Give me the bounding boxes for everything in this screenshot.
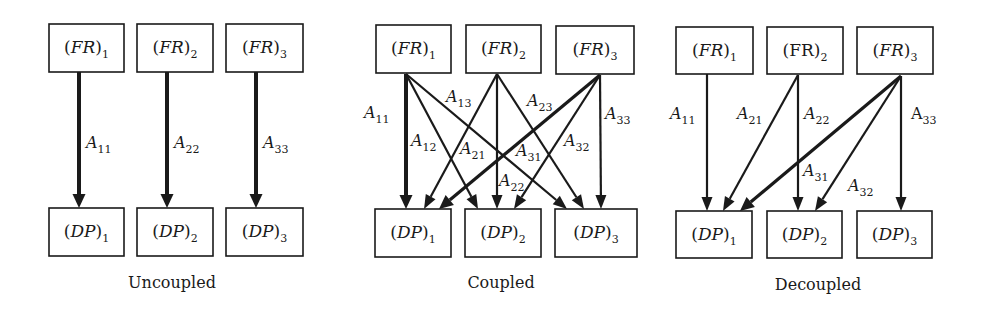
- box-dp3: (DP)3: [555, 209, 637, 257]
- edge-label: A31: [514, 141, 542, 164]
- box-fr2: (FR)2: [767, 27, 843, 74]
- panels: A11A22A33(FR)1(FR)2(FR)3(DP)1(DP)2(DP)3U…: [49, 24, 937, 294]
- box-dp2: (DP)2: [767, 211, 842, 258]
- edge-a22: A22: [793, 75, 830, 211]
- arrowhead-icon: [595, 195, 606, 209]
- arrowhead-icon: [514, 194, 526, 209]
- edge-label: A22: [802, 104, 830, 127]
- edge-label: A13: [444, 87, 472, 110]
- arrowhead-icon: [723, 196, 735, 211]
- box-dp2: (DP)2: [137, 208, 213, 256]
- edge-label: A32: [562, 131, 590, 154]
- edge-label: A12: [409, 131, 437, 154]
- arrow-line: [730, 75, 798, 199]
- box-fr1: (FR)1: [49, 24, 124, 72]
- edge-a33: A33: [896, 76, 937, 211]
- box-fr1: (FR)1: [376, 25, 451, 73]
- caption-coupled: Coupled: [467, 273, 534, 292]
- arrowhead-icon: [73, 194, 86, 208]
- arrow-line: [450, 75, 600, 200]
- edge-label: A33: [261, 133, 289, 156]
- arrowhead-icon: [793, 197, 804, 211]
- box-dp1: (DP)1: [375, 209, 451, 257]
- caption-decoupled: Decoupled: [775, 275, 861, 294]
- edge-label: A22: [497, 171, 525, 194]
- arrowhead-icon: [815, 196, 827, 211]
- box-dp1: (DP)1: [676, 211, 752, 258]
- arrow-line: [600, 75, 601, 195]
- edge-label: A11: [84, 133, 112, 156]
- arrowhead-icon: [400, 195, 413, 209]
- arrowhead-icon: [250, 194, 263, 208]
- edge-label: A21: [735, 104, 763, 127]
- panel-uncoupled: A11A22A33(FR)1(FR)2(FR)3(DP)1(DP)2(DP)3U…: [49, 24, 303, 292]
- edge-label: A32: [846, 176, 874, 199]
- edge-label: A21: [458, 139, 486, 162]
- edge-label: A33: [910, 104, 937, 127]
- arrowhead-icon: [161, 194, 174, 208]
- arrowhead-icon: [467, 194, 478, 209]
- edge-a31: A31: [740, 76, 901, 211]
- edge-a33: A33: [595, 75, 630, 209]
- box-fr2: (FR)2: [466, 25, 541, 73]
- box-dp3: (DP)3: [857, 211, 932, 258]
- edge-label: A22: [172, 133, 200, 156]
- edge-label: A11: [668, 104, 696, 127]
- box-fr3: (FR)3: [857, 27, 933, 74]
- caption-uncoupled: Uncoupled: [128, 273, 216, 292]
- box-fr3: (FR)3: [556, 26, 634, 74]
- edge-label: A31: [801, 161, 829, 184]
- box-dp2: (DP)2: [465, 209, 541, 257]
- panel-coupled: A11A12A13A21A22A23A31A32A33(FR)1(FR)2(FR…: [362, 25, 637, 292]
- edge-label: A11: [362, 103, 390, 126]
- box-dp1: (DP)1: [49, 208, 124, 256]
- axiomatic-design-coupling-diagram: A11A22A33(FR)1(FR)2(FR)3(DP)1(DP)2(DP)3U…: [0, 0, 983, 315]
- edge-a11: A11: [73, 72, 112, 208]
- edge-label: A23: [525, 91, 553, 114]
- arrowhead-icon: [702, 197, 713, 211]
- box-fr1: (FR)1: [676, 27, 753, 74]
- arrowhead-icon: [896, 197, 907, 211]
- edge-a21: A21: [723, 75, 798, 211]
- arrowhead-icon: [572, 194, 584, 209]
- edge-a32: A32: [815, 76, 901, 211]
- edge-a11: A11: [668, 74, 713, 211]
- panel-decoupled: A11A21A22A31A32A33(FR)1(FR)2(FR)3(DP)1(D…: [668, 27, 937, 294]
- arrow-line: [431, 74, 497, 197]
- arrow-line: [823, 76, 901, 199]
- edge-a33: A33: [250, 72, 289, 208]
- box-fr2: (FR)2: [137, 24, 213, 72]
- edge-label: A33: [603, 104, 631, 127]
- arrowhead-icon: [492, 195, 503, 209]
- arrowhead-icon: [424, 194, 435, 209]
- edge-a11: A11: [362, 74, 413, 209]
- box-dp3: (DP)3: [226, 208, 303, 256]
- box-fr3: (FR)3: [226, 24, 303, 72]
- edge-a22: A22: [161, 72, 200, 208]
